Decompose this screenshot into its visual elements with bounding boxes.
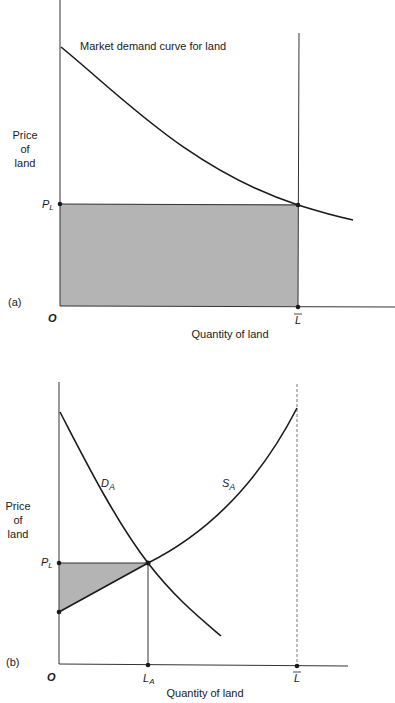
x-axis-a	[60, 306, 395, 307]
land-rent-diagrams: Market demand curve for land Price of la…	[0, 0, 395, 703]
panel-b: DA SA Price of land PL (b) O LA L Quanti…	[5, 382, 348, 699]
demand-label-da: DA	[101, 477, 115, 492]
market-demand-curve	[61, 47, 353, 220]
origin-label-b: O	[47, 671, 56, 683]
fixed-supply-line	[298, 33, 299, 306]
price-label-b: PL	[41, 556, 53, 570]
equilibrium-point-b	[146, 561, 151, 566]
supply-label-sa: SA	[222, 477, 235, 492]
equilibrium-point-a	[296, 203, 301, 208]
la-point	[146, 663, 151, 668]
lbar-label-a: L	[295, 314, 301, 326]
pl-point-b	[57, 561, 62, 566]
y-axis-label-a-2: of	[20, 143, 30, 155]
x-axis-b	[59, 664, 348, 666]
y-axis-label-b-3: land	[8, 528, 29, 540]
demand-curve-label: Market demand curve for land	[80, 40, 226, 52]
lbar-label-b: L	[294, 672, 300, 684]
y-axis-label-a-3: land	[15, 157, 36, 169]
y-axis-label-b-1: Price	[5, 500, 30, 512]
total-rent-area	[60, 204, 298, 306]
panel-tag-a: (a)	[8, 296, 21, 308]
lbar-point-a	[296, 305, 301, 310]
la-label: LA	[143, 672, 154, 686]
pl-point-a	[58, 202, 63, 207]
price-label-a: PL	[42, 198, 54, 212]
panel-tag-b: (b)	[6, 656, 19, 668]
supply-intercept-point	[57, 610, 62, 615]
panel-a: Market demand curve for land Price of la…	[8, 0, 395, 340]
lbar-point-b	[295, 664, 300, 669]
demand-curve-da	[60, 412, 221, 636]
y-axis-label-a-1: Price	[12, 129, 37, 141]
x-axis-label-a: Quantity of land	[191, 328, 268, 340]
origin-label-a: O	[48, 312, 57, 324]
x-axis-label-b: Quantity of land	[166, 687, 243, 699]
y-axis-label-b-2: of	[13, 514, 23, 526]
